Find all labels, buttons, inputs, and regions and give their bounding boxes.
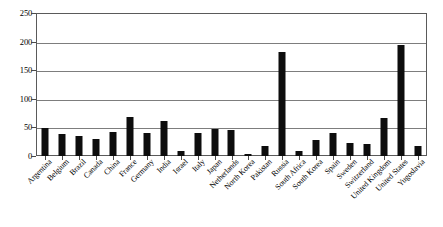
bar [228, 130, 235, 156]
bar-slot [37, 14, 54, 156]
bar [414, 146, 421, 156]
y-tick-label: 200 [0, 38, 32, 47]
bar-chart: 250 200 150 100 50 0 ArgentinaBelgiumBra… [0, 0, 443, 227]
bar-slot [240, 14, 257, 156]
bar [127, 117, 134, 156]
bar-slot [138, 14, 155, 156]
y-tick-mark [31, 42, 36, 43]
bars-container [37, 14, 426, 156]
bar [194, 133, 201, 156]
bar [279, 52, 286, 156]
bar [380, 118, 387, 156]
x-axis-label: Italy [191, 158, 207, 174]
bar-slot [206, 14, 223, 156]
bar-slot [392, 14, 409, 156]
bar [262, 146, 269, 156]
y-tick-mark [31, 70, 36, 71]
bar-slot [122, 14, 139, 156]
y-tick-label: 0 [0, 152, 32, 161]
bar-slot [358, 14, 375, 156]
x-axis-label: India [156, 158, 173, 175]
y-tick-label: 100 [0, 95, 32, 104]
x-axis-label: Israel [172, 158, 190, 176]
y-tick-mark [31, 127, 36, 128]
bar-slot [71, 14, 88, 156]
bar [93, 139, 100, 156]
bar-slot [274, 14, 291, 156]
bar-slot [223, 14, 240, 156]
bar [160, 121, 167, 156]
bar-slot [325, 14, 342, 156]
y-tick-mark [31, 99, 36, 100]
bar [329, 133, 336, 156]
y-tick-mark [31, 13, 36, 14]
bar [397, 45, 404, 156]
bar [211, 129, 218, 156]
bar [143, 133, 150, 156]
bar-slot [105, 14, 122, 156]
bar [110, 132, 117, 156]
bar [313, 140, 320, 156]
y-tick-label: 150 [0, 66, 32, 75]
bar-slot [375, 14, 392, 156]
bar [76, 136, 83, 156]
bar-slot [54, 14, 71, 156]
bar-slot [341, 14, 358, 156]
bar-slot [291, 14, 308, 156]
bar-slot [409, 14, 426, 156]
y-tick-label: 250 [0, 9, 32, 18]
bar-slot [257, 14, 274, 156]
bar-slot [308, 14, 325, 156]
bar-slot [88, 14, 105, 156]
bar [346, 143, 353, 156]
bar [59, 134, 66, 156]
bar-slot [172, 14, 189, 156]
bar-slot [155, 14, 172, 156]
bar-slot [189, 14, 206, 156]
bar [363, 144, 370, 156]
bar [42, 128, 49, 156]
x-axis-labels: ArgentinaBelgiumBrazilCanadaChinaFranceG… [37, 158, 426, 227]
y-tick-mark [31, 156, 36, 157]
y-axis: 250 200 150 100 50 0 [0, 0, 32, 227]
y-tick-label: 50 [0, 123, 32, 132]
